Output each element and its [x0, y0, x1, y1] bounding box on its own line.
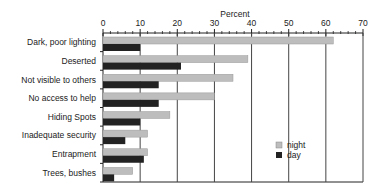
bar-chart: Percent 010203040506070 Dark, poor light… [0, 0, 383, 193]
category-label: No access to help [28, 93, 96, 103]
bar-night [103, 37, 333, 44]
legend: night day [276, 140, 306, 160]
x-tick-label: 70 [358, 18, 368, 28]
bar-day [103, 156, 144, 163]
category-label: Dark, poor lighting [27, 37, 96, 47]
legend-label-day: day [287, 150, 301, 160]
category-label: Deserted [62, 56, 97, 66]
category-label: Not visible to others [21, 75, 96, 85]
x-tick-label: 30 [210, 18, 220, 28]
category-label: Trees, bushes [42, 168, 96, 178]
bar-day [103, 81, 159, 88]
bar-night [103, 56, 248, 63]
x-tick-label: 60 [321, 18, 331, 28]
x-tick-label: 0 [101, 18, 106, 28]
bar-day [103, 137, 125, 144]
legend-swatch-day [276, 152, 282, 158]
bar-night [103, 149, 148, 156]
category-label: Hiding Spots [48, 112, 96, 122]
x-axis-title: Percent [220, 9, 250, 19]
x-tick-label: 50 [284, 18, 294, 28]
bar-day [103, 63, 181, 70]
x-tick-label: 10 [135, 18, 145, 28]
category-labels: Dark, poor lightingDesertedNot visible t… [21, 37, 103, 182]
bar-day [103, 100, 159, 107]
bar-night [103, 74, 233, 81]
x-tick-label: 40 [247, 18, 257, 28]
bar-night [103, 112, 170, 119]
bar-day [103, 44, 140, 51]
category-label: Inadequate security [22, 130, 97, 140]
x-tick-label: 20 [173, 18, 183, 28]
bar-night [103, 93, 214, 100]
bar-day [103, 174, 114, 181]
legend-label-night: night [287, 140, 306, 150]
bar-night [103, 167, 133, 174]
bar-night [103, 130, 148, 137]
x-axis-ticks: 010203040506070 [101, 18, 368, 36]
legend-swatch-night [276, 142, 282, 148]
bar-day [103, 119, 140, 126]
category-label: Entrapment [52, 149, 97, 159]
